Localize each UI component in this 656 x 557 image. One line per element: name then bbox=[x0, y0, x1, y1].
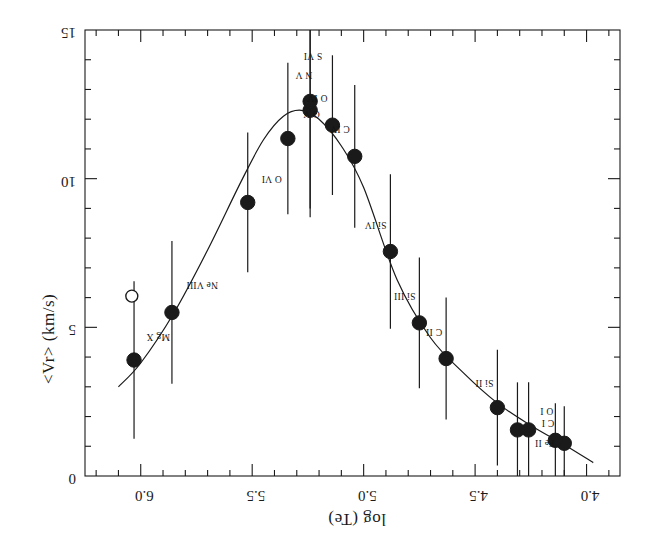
data-point[interactable] bbox=[490, 400, 504, 414]
rotated-figure-container: log (Te) <Vr> (km/s) 4.04.55.05.56.00510… bbox=[0, 0, 656, 557]
data-point-label: C II bbox=[426, 327, 442, 337]
data-point-label: Si II bbox=[475, 378, 493, 388]
x-tick-label: 6.0 bbox=[135, 487, 154, 504]
data-point-label: O VI bbox=[261, 174, 281, 184]
x-tick-label: 5.5 bbox=[246, 487, 265, 504]
data-point-label: Mg X bbox=[146, 332, 170, 342]
data-point-label: Si IV bbox=[365, 220, 387, 230]
data-point-label: O V bbox=[303, 109, 320, 119]
y-tick-label: 15 bbox=[61, 24, 76, 41]
x-axis-title: log (Te) bbox=[328, 509, 386, 529]
data-point-open[interactable] bbox=[126, 290, 138, 302]
x-tick-label: 4.5 bbox=[469, 487, 488, 504]
data-point[interactable] bbox=[241, 195, 255, 209]
scatter-plot-canvas bbox=[0, 0, 656, 557]
y-axis-title: <Vr> (km/s) bbox=[39, 294, 59, 384]
data-point[interactable] bbox=[165, 305, 179, 319]
data-point[interactable] bbox=[510, 423, 524, 437]
y-tick-label: 5 bbox=[69, 321, 77, 338]
data-point[interactable] bbox=[348, 149, 362, 163]
data-point-label: N V bbox=[295, 70, 312, 80]
data-point-label: Ne VIII bbox=[186, 280, 218, 290]
data-point-label: C I bbox=[542, 418, 555, 428]
data-point-label: S VI bbox=[303, 51, 322, 61]
data-point[interactable] bbox=[127, 353, 141, 367]
x-tick-label: 5.0 bbox=[358, 487, 377, 504]
y-tick-label: 10 bbox=[61, 173, 76, 190]
data-point[interactable] bbox=[439, 351, 453, 365]
data-point-label: O I bbox=[540, 406, 553, 416]
y-tick-label: 0 bbox=[69, 470, 77, 487]
data-point[interactable] bbox=[281, 131, 295, 145]
x-tick-label: 4.0 bbox=[581, 487, 600, 504]
data-point-label: O IV bbox=[307, 93, 327, 103]
data-point-label: C IV bbox=[330, 124, 350, 134]
data-point-label: Si III bbox=[394, 291, 416, 301]
data-point-label: Fe II bbox=[535, 438, 555, 448]
data-point[interactable] bbox=[383, 244, 397, 258]
data-point[interactable] bbox=[412, 316, 426, 330]
